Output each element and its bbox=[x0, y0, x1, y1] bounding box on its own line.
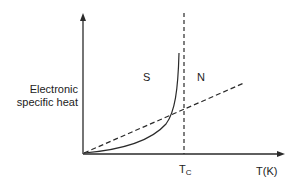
y-axis-arrow-icon bbox=[80, 13, 86, 21]
tc-subscript: C bbox=[186, 168, 192, 177]
normal-region-label: N bbox=[197, 71, 205, 83]
tc-main: T bbox=[179, 163, 186, 175]
normal-state-line bbox=[84, 83, 244, 153]
superconducting-state-curve bbox=[84, 53, 179, 153]
critical-temperature-label: TC bbox=[179, 163, 192, 179]
y-axis-label-line1: Electronic bbox=[17, 83, 78, 96]
x-axis-arrow-icon bbox=[277, 151, 285, 157]
y-axis-label: Electronic specific heat bbox=[17, 83, 78, 109]
x-axis-label: T(K) bbox=[256, 165, 277, 177]
specific-heat-diagram: Electronic specific heat S N TC T(K) bbox=[0, 0, 296, 186]
superconducting-region-label: S bbox=[143, 71, 150, 83]
y-axis-label-line2: specific heat bbox=[17, 96, 78, 109]
